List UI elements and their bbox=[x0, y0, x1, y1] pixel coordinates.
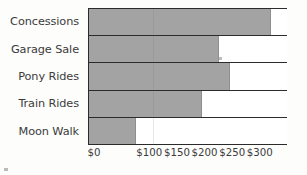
x-tick-label: $100 bbox=[136, 147, 162, 158]
table-row bbox=[89, 91, 287, 118]
table-row bbox=[89, 36, 287, 63]
bar-train-rides bbox=[89, 91, 202, 117]
bar-chart: Concessions Garage Sale Pony Rides Train… bbox=[0, 0, 307, 175]
x-tick-label: $0 bbox=[88, 147, 101, 158]
bar-garage-sale bbox=[89, 36, 219, 62]
table-row bbox=[89, 63, 287, 90]
plot-area bbox=[88, 8, 287, 145]
scan-artifact-speck bbox=[4, 168, 8, 171]
x-tick-label: $300 bbox=[247, 147, 273, 158]
category-label-concessions: Concessions bbox=[0, 8, 84, 35]
x-tick-label: $150 bbox=[164, 147, 190, 158]
x-axis-tick-labels: $0$100$150$200$250$300 bbox=[88, 147, 287, 163]
bar-concessions bbox=[89, 9, 271, 35]
bar-moon-walk bbox=[89, 118, 136, 144]
category-label-train-rides: Train Rides bbox=[0, 90, 84, 117]
x-tick-label: $250 bbox=[219, 147, 245, 158]
category-label-garage-sale: Garage Sale bbox=[0, 35, 84, 62]
bar-rows bbox=[89, 9, 287, 144]
table-row bbox=[89, 9, 287, 36]
category-label-moon-walk: Moon Walk bbox=[0, 118, 84, 145]
table-row bbox=[89, 118, 287, 144]
bar-pony-rides bbox=[89, 63, 230, 89]
category-label-pony-rides: Pony Rides bbox=[0, 63, 84, 90]
y-axis-category-labels: Concessions Garage Sale Pony Rides Train… bbox=[0, 8, 84, 145]
x-tick-label: $200 bbox=[192, 147, 218, 158]
